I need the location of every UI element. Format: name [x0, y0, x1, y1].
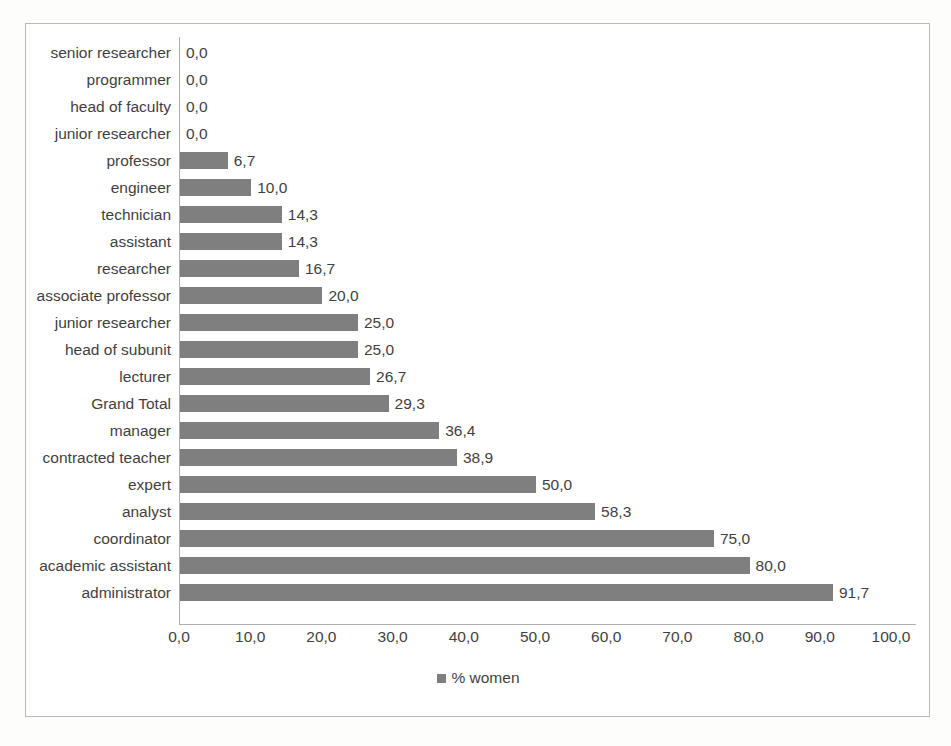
x-axis-tick: 50,0	[520, 628, 550, 646]
bar[interactable]	[180, 287, 322, 304]
bar-value-label: 80,0	[750, 552, 786, 579]
bar[interactable]	[180, 584, 833, 601]
bar-value-label: 91,7	[833, 579, 869, 606]
category-label: contracted teacher	[43, 444, 180, 471]
bar-row: assistant14,3	[180, 228, 916, 255]
bar[interactable]	[180, 476, 536, 493]
bar-value-label: 75,0	[714, 525, 750, 552]
bar[interactable]	[180, 449, 457, 466]
bar-value-label: 29,3	[389, 390, 425, 417]
bar-value-label: 25,0	[358, 309, 394, 336]
bar-value-label: 50,0	[536, 471, 572, 498]
bar[interactable]	[180, 530, 714, 547]
bar-row: programmer0,0	[180, 66, 916, 93]
category-label: administrator	[81, 579, 180, 606]
x-axis-tick: 20,0	[306, 628, 336, 646]
bar[interactable]	[180, 152, 228, 169]
category-label: expert	[128, 471, 180, 498]
x-axis-tick: 40,0	[449, 628, 479, 646]
bar[interactable]	[180, 395, 389, 412]
category-label: analyst	[122, 498, 180, 525]
bar-row: technician14,3	[180, 201, 916, 228]
x-axis-tick: 10,0	[235, 628, 265, 646]
bar-value-label: 16,7	[299, 255, 335, 282]
category-label: academic assistant	[39, 552, 180, 579]
bar-row: engineer10,0	[180, 174, 916, 201]
bar-row: head of faculty0,0	[180, 93, 916, 120]
x-axis-tick-labels: 0,010,020,030,040,050,060,070,080,090,01…	[179, 628, 916, 658]
bar-row: junior researcher25,0	[180, 309, 916, 336]
legend-swatch-icon	[437, 674, 446, 683]
category-label: professor	[106, 147, 180, 174]
bar-value-label: 14,3	[282, 201, 318, 228]
plot-area: senior researcher0,0programmer0,0head of…	[179, 37, 916, 625]
bar[interactable]	[180, 557, 750, 574]
legend-label: % women	[451, 669, 519, 687]
x-axis-tick: 0,0	[168, 628, 190, 646]
bar-value-label: 0,0	[180, 39, 208, 66]
x-axis-tick: 30,0	[378, 628, 408, 646]
category-label: researcher	[97, 255, 180, 282]
x-axis-tick: 80,0	[734, 628, 764, 646]
x-axis-tick: 60,0	[591, 628, 621, 646]
bar[interactable]	[180, 179, 251, 196]
category-label: manager	[110, 417, 180, 444]
bar[interactable]	[180, 260, 299, 277]
category-label: senior researcher	[50, 39, 180, 66]
bar-value-label: 58,3	[595, 498, 631, 525]
bar-value-label: 25,0	[358, 336, 394, 363]
bar-row: expert50,0	[180, 471, 916, 498]
x-axis-tick: 100,0	[872, 628, 911, 646]
bar-row: lecturer26,7	[180, 363, 916, 390]
x-axis-tick: 70,0	[662, 628, 692, 646]
category-label: head of faculty	[70, 93, 180, 120]
bar-value-label: 6,7	[228, 147, 256, 174]
bar-row: junior researcher0,0	[180, 120, 916, 147]
bar-value-label: 20,0	[322, 282, 358, 309]
bar[interactable]	[180, 206, 282, 223]
bar-row: associate professor20,0	[180, 282, 916, 309]
bar-value-label: 14,3	[282, 228, 318, 255]
category-label: junior researcher	[55, 120, 180, 147]
chart-legend: % women	[26, 669, 931, 687]
category-label: head of subunit	[65, 336, 180, 363]
category-label: technician	[101, 201, 180, 228]
bar-row: head of subunit25,0	[180, 336, 916, 363]
bar-value-label: 0,0	[180, 93, 208, 120]
category-label: engineer	[111, 174, 180, 201]
bar[interactable]	[180, 368, 370, 385]
category-label: lecturer	[119, 363, 180, 390]
bar[interactable]	[180, 341, 358, 358]
bar[interactable]	[180, 422, 439, 439]
bar-row: researcher16,7	[180, 255, 916, 282]
bar-row: administrator91,7	[180, 579, 916, 606]
bar-row: professor6,7	[180, 147, 916, 174]
bar-value-label: 26,7	[370, 363, 406, 390]
bar[interactable]	[180, 503, 595, 520]
bar-value-label: 0,0	[180, 66, 208, 93]
bar[interactable]	[180, 314, 358, 331]
category-label: programmer	[87, 66, 180, 93]
bar-row: contracted teacher38,9	[180, 444, 916, 471]
category-label: associate professor	[37, 282, 180, 309]
bar-row: analyst58,3	[180, 498, 916, 525]
bar-value-label: 38,9	[457, 444, 493, 471]
category-label: junior researcher	[55, 309, 180, 336]
bar-row: Grand Total29,3	[180, 390, 916, 417]
bar-value-label: 10,0	[251, 174, 287, 201]
bar-row: coordinator75,0	[180, 525, 916, 552]
category-label: assistant	[110, 228, 180, 255]
x-axis-tick: 90,0	[805, 628, 835, 646]
bar-row: manager36,4	[180, 417, 916, 444]
bar-value-label: 0,0	[180, 120, 208, 147]
chart-container: senior researcher0,0programmer0,0head of…	[25, 23, 930, 717]
bar-value-label: 36,4	[439, 417, 475, 444]
category-label: coordinator	[93, 525, 180, 552]
bar-row: senior researcher0,0	[180, 39, 916, 66]
bar-row: academic assistant80,0	[180, 552, 916, 579]
bar[interactable]	[180, 233, 282, 250]
category-label: Grand Total	[91, 390, 180, 417]
